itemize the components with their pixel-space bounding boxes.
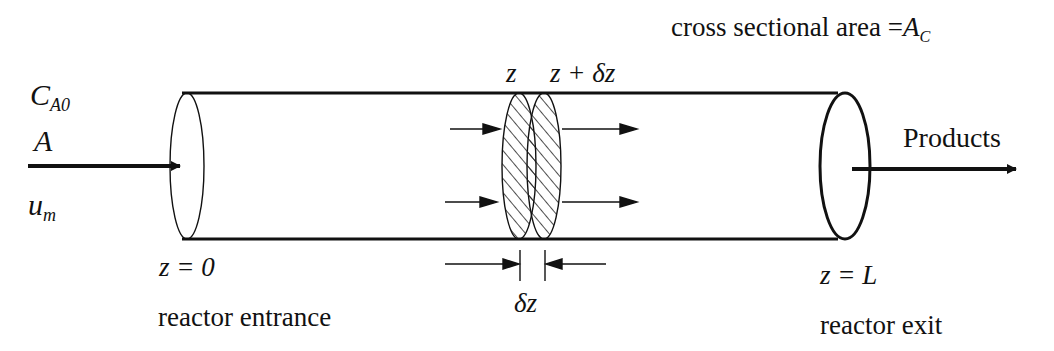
outlet-label: Products	[903, 124, 1001, 152]
exit-name-label: reactor exit	[820, 312, 942, 339]
inlet-concentration-label: CA0	[30, 80, 70, 114]
element-thickness-label: δz	[514, 290, 537, 317]
flow-in-arrows	[445, 124, 500, 207]
flow-out-arrows	[562, 124, 637, 207]
differential-element	[502, 93, 561, 239]
cross-section-label: cross sectional area =AC	[671, 14, 930, 45]
cross-section-text: cross sectional area =	[671, 12, 903, 42]
exit-position-label: z = L	[820, 262, 877, 289]
entrance-name-label: reactor entrance	[158, 304, 331, 331]
slab-face-z	[502, 93, 536, 239]
cross-section-subscript: C	[919, 28, 930, 46]
thickness-dimension	[445, 250, 606, 281]
cross-section-symbol: A	[903, 12, 920, 42]
entrance-position-label: z = 0	[159, 254, 215, 281]
velocity-symbol: u	[28, 188, 43, 221]
inlet-species-label: A	[34, 126, 52, 156]
element-left-label: z	[506, 60, 517, 87]
element-right-label: z + δz	[550, 60, 615, 87]
inlet-velocity-label: um	[28, 190, 56, 224]
concentration-symbol: C	[30, 78, 50, 111]
velocity-subscript: m	[43, 205, 56, 225]
exit-cross-section	[820, 93, 870, 239]
concentration-subscript: A0	[50, 95, 70, 115]
